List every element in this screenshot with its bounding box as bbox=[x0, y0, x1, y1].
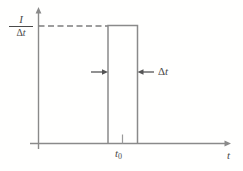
pulse-width-var: t bbox=[165, 65, 168, 77]
t0-subscript: 0 bbox=[118, 152, 122, 161]
width-arrow-right-head bbox=[102, 69, 108, 75]
y-axis-label-numerator: I bbox=[8, 14, 34, 26]
y-axis-label-denominator-var: t bbox=[23, 27, 26, 38]
width-arrow-left-head bbox=[138, 69, 144, 75]
x-axis bbox=[30, 141, 231, 147]
y-axis-label-denominator: Δt bbox=[8, 27, 34, 38]
x-axis-arrowhead-icon bbox=[225, 141, 232, 147]
width-arrow-left-icon bbox=[138, 69, 155, 75]
y-axis bbox=[36, 7, 42, 149]
pulse-width-label: Δt bbox=[158, 66, 168, 77]
width-arrow-right-icon bbox=[91, 69, 108, 75]
y-axis-label: I Δt bbox=[8, 14, 34, 38]
figure-canvas bbox=[0, 0, 243, 171]
pulse-rectangle bbox=[108, 26, 138, 144]
impulse-pulse-figure: I Δt Δt t0 t bbox=[0, 0, 243, 171]
x-axis-label: t bbox=[227, 150, 230, 161]
y-axis-arrowhead-icon bbox=[36, 7, 42, 14]
x-tick-label-t0: t0 bbox=[115, 148, 122, 159]
